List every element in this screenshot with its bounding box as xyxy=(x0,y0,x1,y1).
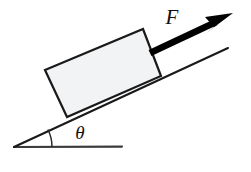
inclined-plane-diagram: F θ xyxy=(0,0,251,172)
force-label: F xyxy=(165,5,179,29)
figure-root: F θ xyxy=(0,0,251,172)
angle-label: θ xyxy=(75,122,84,143)
